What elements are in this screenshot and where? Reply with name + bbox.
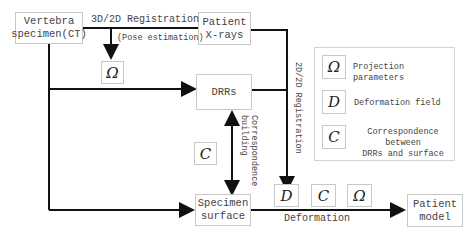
- legend-omega-text: Projection parameters: [353, 62, 454, 84]
- deformation-symbol-box: D: [274, 184, 299, 207]
- patient-xrays-node: Patient X-rays: [198, 12, 251, 45]
- legend-deformation-text: Deformation field: [354, 98, 441, 109]
- legend-omega-icon: Ω: [322, 55, 346, 79]
- omega-symbol-box-2: Ω: [347, 184, 372, 207]
- correspondence-building-label: Correspondence building: [239, 115, 259, 186]
- omega-symbol-box: Ω: [101, 61, 124, 84]
- correspondence-symbol-box: C: [194, 142, 217, 165]
- legend: Ω Projection parameters D Deformation fi…: [314, 47, 455, 161]
- deformation-label: Deformation: [284, 213, 350, 224]
- legend-correspondence-text: Correspondence between DRRs and surface: [352, 127, 454, 160]
- vertebra-specimen-node: Vertebra specimen(CT): [15, 12, 83, 44]
- registration-2d2d-label: 2D/2D Registration: [293, 62, 303, 154]
- legend-correspondence-icon: C: [322, 125, 346, 149]
- drrs-node: DRRs: [196, 74, 252, 110]
- registration-3d2d-label: 3D/2D Registration: [91, 14, 199, 25]
- legend-deformation-icon: D: [322, 90, 346, 114]
- correspondence-symbol-box-2: C: [311, 184, 336, 207]
- specimen-surface-node: Specimen surface: [195, 194, 251, 226]
- patient-model-node: Patient model: [407, 194, 463, 227]
- pose-estimation-label: (Pose estimation): [117, 33, 204, 43]
